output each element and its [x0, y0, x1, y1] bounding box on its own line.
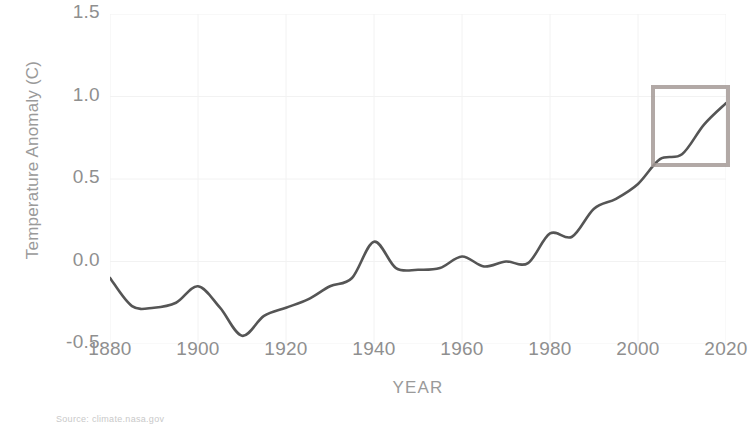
- y-axis-tick-labels: -0.50.00.51.01.5: [44, 0, 100, 440]
- y-axis-title: Temperature Anomaly (C): [23, 10, 43, 310]
- x-tick-label: 1880: [65, 338, 155, 360]
- y-tick-label: 0.5: [46, 166, 100, 188]
- x-axis-tick-labels: 18801900192019401960198020002020: [0, 338, 742, 366]
- x-axis-title: YEAR: [110, 378, 726, 398]
- x-tick-label: 1900: [153, 338, 243, 360]
- y-tick-label: 1.5: [46, 1, 100, 23]
- x-tick-label: 1960: [417, 338, 507, 360]
- plot-area: [110, 14, 726, 344]
- x-tick-label: 1980: [505, 338, 595, 360]
- x-tick-label: 1940: [329, 338, 419, 360]
- temperature-anomaly-line: [110, 103, 726, 336]
- plot-svg: [110, 14, 726, 344]
- x-tick-label: 2020: [681, 338, 752, 360]
- y-tick-label: 0.0: [46, 249, 100, 271]
- y-tick-label: 1.0: [46, 84, 100, 106]
- source-note: Source: climate.nasa.gov: [56, 414, 164, 424]
- x-tick-label: 2000: [593, 338, 683, 360]
- x-tick-label: 1920: [241, 338, 331, 360]
- gridlines: [110, 14, 726, 344]
